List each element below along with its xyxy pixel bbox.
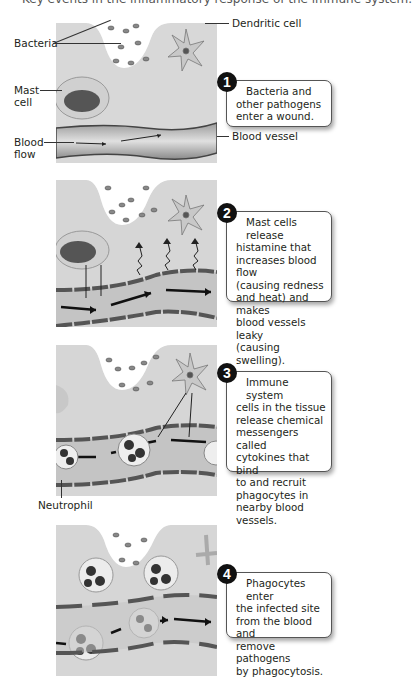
callout-step-1: 1 Bacteria and other pathogens enter a w… <box>226 80 332 127</box>
leader-blood-vessel <box>217 136 229 137</box>
leader-dendritic-cell <box>205 23 229 24</box>
top-caption-fragment: Key events in the inflammatory response … <box>22 0 412 6</box>
callout-2-line-4: (causing redness <box>236 279 326 292</box>
callout-2-line-7: (causing swelling). <box>236 341 326 366</box>
callout-1-line-3: enter a wound. <box>236 110 326 123</box>
callout-4-line-2: the infected site <box>236 602 326 615</box>
leader-mast-cell <box>40 90 62 91</box>
callout-4-line-3: from the blood and <box>236 615 326 640</box>
leader-blood-flow <box>44 142 74 143</box>
callout-3-line-5: cytokines that bind <box>236 451 326 476</box>
panel-1-illustration <box>56 23 217 163</box>
panel-2-art <box>56 180 217 327</box>
leader-neutrophil <box>61 480 62 498</box>
callout-3-line-2: cells in the tissue <box>236 401 326 414</box>
callout-3-line-6: to and recruit <box>236 476 326 489</box>
callout-2-line-6: blood vessels leaky <box>236 316 326 341</box>
step-number-2: 2 <box>217 203 237 223</box>
leader-bacteria-2 <box>53 43 121 44</box>
callout-3-line-3: release chemical <box>236 414 326 427</box>
label-blood-vessel: Blood vessel <box>232 130 298 142</box>
panel-2-illustration <box>56 180 217 327</box>
step-number-3: 3 <box>217 363 237 383</box>
callout-step-3: 3 Immune system cells in the tissue rele… <box>226 371 332 472</box>
callout-3-line-8: nearby blood vessels. <box>236 501 326 526</box>
callout-3-line-7: phagocytes in <box>236 489 326 502</box>
label-dendritic-cell: Dendritic cell <box>232 17 301 29</box>
callout-4-line-1: Phagocytes enter <box>236 577 326 602</box>
callout-1-line-2: other pathogens <box>236 98 326 111</box>
label-blood-flow-2: flow <box>14 148 36 160</box>
label-mast-cell-2: cell <box>14 96 32 108</box>
callout-step-2: 2 Mast cells release histamine that incr… <box>226 211 332 302</box>
callout-2-line-3: increases blood flow <box>236 254 326 279</box>
panel-4-art <box>56 525 217 676</box>
label-bacteria: Bacteria <box>14 37 58 49</box>
callout-2-line-1: Mast cells release <box>236 216 326 241</box>
callout-2-line-2: histamine that <box>236 241 326 254</box>
callout-3-line-1: Immune system <box>236 376 326 401</box>
panel-1-art <box>56 23 217 163</box>
label-blood-flow-1: Blood <box>14 136 44 148</box>
callout-2-line-5: and heat) and makes <box>236 291 326 316</box>
panel-4-illustration <box>56 525 217 676</box>
callout-4-line-4: remove pathogens <box>236 640 326 665</box>
callout-1-line-1: Bacteria and <box>236 85 326 98</box>
panel-3-art <box>56 345 217 496</box>
step-number-1: 1 <box>217 72 237 92</box>
callout-4-line-5: by phagocytosis. <box>236 665 326 678</box>
callout-3-line-4: messengers called <box>236 426 326 451</box>
callout-step-4: 4 Phagocytes enter the infected site fro… <box>226 572 332 638</box>
label-neutrophil: Neutrophil <box>38 499 93 511</box>
label-mast-cell-1: Mast <box>14 84 39 96</box>
panel-3-illustration <box>56 345 217 496</box>
step-number-4: 4 <box>217 564 237 584</box>
